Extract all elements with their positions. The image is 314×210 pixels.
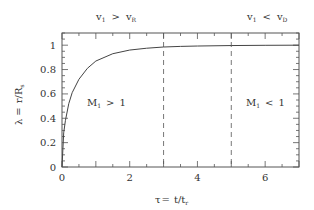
- y-axis-label: λ=r/Rs: [13, 84, 25, 125]
- y-tick-label: 0.4: [40, 113, 56, 124]
- x-tick-label: 2: [127, 172, 133, 183]
- y-tick-label: 0: [50, 162, 56, 173]
- annotation-region-left: M1>1: [87, 97, 126, 109]
- annotation-top-right: v1<vD: [246, 11, 288, 23]
- x-tick-label: 4: [194, 172, 200, 183]
- chart: 024600.20.40.60.81 v1>vR v1<vD M1>1 M1<1…: [0, 0, 314, 210]
- y-tick-label: 0.6: [40, 88, 56, 99]
- annotation-region-right: M1<1: [246, 97, 285, 109]
- x-tick-label: 0: [59, 172, 65, 183]
- dashed-reference-lines: [164, 33, 232, 167]
- y-tick-label: 0.8: [40, 64, 56, 75]
- annotation-top-left: v1>vR: [95, 11, 137, 23]
- tick-labels: 024600.20.40.60.81: [40, 40, 268, 183]
- y-tick-label: 0.2: [40, 137, 56, 148]
- plot-border: [62, 33, 299, 167]
- plot-frame: [62, 33, 299, 167]
- axis-ticks: [62, 33, 299, 167]
- x-tick-label: 6: [262, 172, 268, 183]
- y-tick-label: 1: [50, 40, 56, 51]
- x-axis-label: τ=t/tr: [155, 194, 188, 206]
